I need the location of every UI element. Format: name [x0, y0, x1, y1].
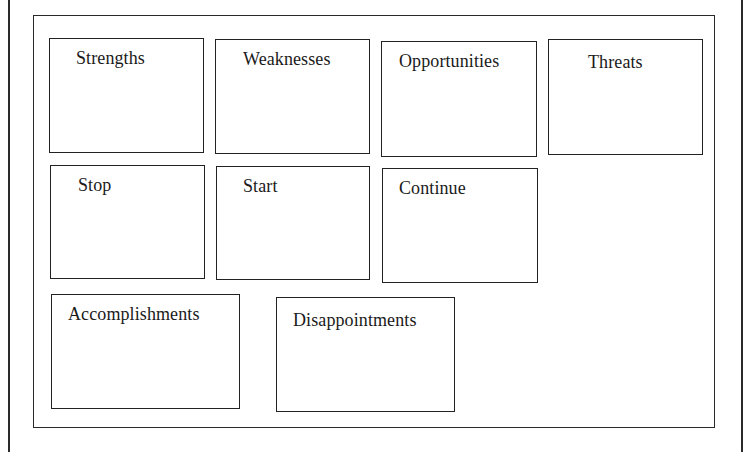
box-label-continue: Continue — [399, 178, 466, 199]
box-label-stop: Stop — [78, 175, 111, 196]
box-label-start: Start — [243, 176, 278, 197]
box-label-threats: Threats — [588, 52, 643, 73]
outer-left-border — [8, 0, 10, 452]
box-disappointments: Disappointments — [276, 297, 455, 412]
box-stop: Stop — [50, 165, 205, 279]
box-start: Start — [216, 166, 370, 280]
box-label-accomplishments: Accomplishments — [68, 304, 199, 325]
box-label-weaknesses: Weaknesses — [243, 49, 331, 70]
box-label-opportunities: Opportunities — [399, 51, 499, 72]
box-weaknesses: Weaknesses — [215, 39, 370, 154]
box-opportunities: Opportunities — [381, 41, 537, 157]
outer-right-border — [741, 0, 743, 452]
box-strengths: Strengths — [49, 38, 204, 153]
box-threats: Threats — [548, 39, 703, 155]
box-continue: Continue — [382, 168, 538, 283]
box-label-strengths: Strengths — [76, 48, 145, 69]
box-accomplishments: Accomplishments — [51, 294, 240, 409]
box-label-disappointments: Disappointments — [293, 310, 417, 331]
